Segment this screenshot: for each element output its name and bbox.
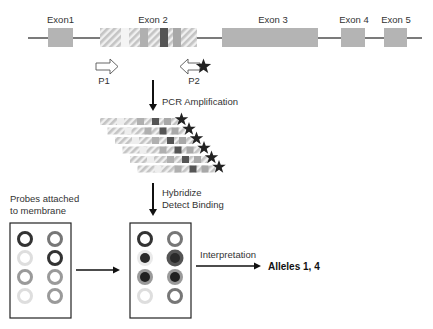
primer-p2-label: P2	[188, 75, 200, 86]
exon-5-label: Exon 5	[381, 14, 411, 25]
exon-3-label: Exon 3	[258, 14, 288, 25]
arrow-right-icon	[96, 59, 118, 74]
genotyping-diagram: Exon1 Exon 2 Exon 3 Exon 4 Exon 5 P1 P2	[0, 0, 433, 329]
gene-structure: Exon1 Exon 2 Exon 3 Exon 4 Exon 5	[28, 14, 422, 47]
arrow-right-icon	[113, 267, 120, 274]
arrow-down-icon	[149, 104, 157, 111]
exon-2-label: Exon 2	[138, 14, 168, 25]
variant-site	[160, 128, 167, 135]
hybridize-label: Hybridize	[162, 187, 202, 198]
primer-p1-label: P1	[98, 75, 110, 86]
probe-spot-bound-ring	[167, 269, 183, 285]
probe-spot-bound-ring	[137, 269, 153, 285]
detect-label: Detect Binding	[162, 199, 224, 210]
variant-site	[160, 28, 168, 47]
exon-4-box	[341, 28, 365, 47]
exon-4-label: Exon 4	[339, 14, 369, 25]
exon-5-box	[384, 28, 407, 47]
variant-site	[190, 166, 197, 173]
variant-site	[152, 118, 159, 125]
exon-2-box	[100, 28, 197, 47]
exon-3-box	[222, 28, 318, 47]
primer-p2: P2	[180, 58, 211, 86]
arrow-down-icon	[149, 209, 157, 216]
exon-1-box	[48, 28, 73, 47]
membrane-caption-line2: to membrane	[10, 205, 66, 216]
probe-spot-bound-small	[137, 250, 153, 266]
exon-1-label: Exon1	[47, 14, 74, 25]
pcr-label: PCR Amplification	[162, 96, 238, 107]
variant-site	[182, 156, 189, 163]
interpretation-label: Interpretation	[200, 249, 256, 260]
probe-spot-bound-large	[167, 250, 184, 267]
arrow-right-icon	[254, 263, 261, 270]
amplicons	[100, 112, 226, 172]
result-label: Alleles 1, 4	[268, 261, 320, 272]
hybridize-step: Hybridize Detect Binding	[149, 183, 224, 216]
primer-p1: P1	[96, 59, 118, 86]
amplicon-strand	[100, 112, 188, 125]
arrow-left-icon	[180, 59, 200, 74]
membrane-caption-line1: Probes attached	[10, 193, 79, 204]
variant-site	[167, 137, 174, 144]
variant-site	[175, 147, 182, 154]
